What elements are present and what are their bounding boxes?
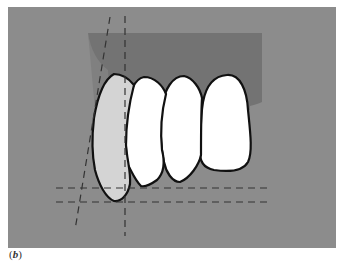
- tooth-central-incisor: [161, 76, 202, 182]
- figure-label: (b): [9, 248, 22, 260]
- figure-label-letter: b: [13, 248, 19, 260]
- dental-diagram: [0, 0, 343, 265]
- tooth-lateral-incisor-2: [200, 75, 251, 171]
